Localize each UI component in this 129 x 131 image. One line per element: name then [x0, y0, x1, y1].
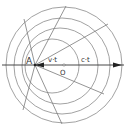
ray-lower-right	[35, 65, 104, 94]
wavefront-diagram: A O v·t c·t	[0, 0, 129, 131]
label-ct: c·t	[81, 56, 90, 64]
label-a: A	[26, 56, 33, 66]
wavefront-circle-3	[22, 28, 98, 104]
point-o-marker	[63, 64, 65, 66]
label-vt: v·t	[48, 56, 57, 64]
wavefront-circle-2	[14, 18, 110, 114]
wavefront-circle-4	[25, 39, 79, 93]
ray-bottom	[35, 65, 62, 124]
ray-lower-left	[23, 65, 35, 110]
point-a-marker	[34, 64, 37, 67]
arrowhead-right-icon	[113, 63, 122, 68]
label-o: O	[60, 69, 66, 77]
